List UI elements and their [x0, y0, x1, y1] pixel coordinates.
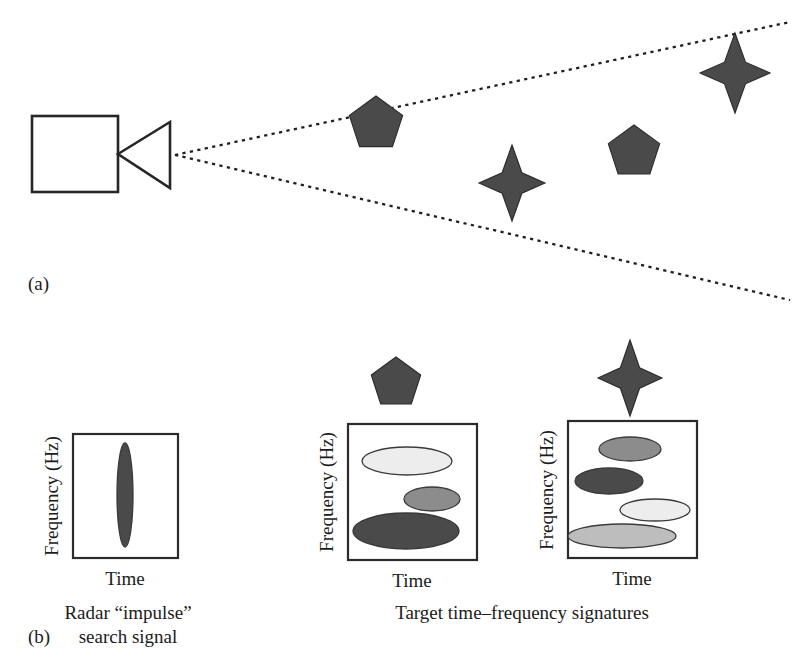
star-target-spectrogram — [568, 340, 697, 558]
panel-3-x-axis-label: Time — [612, 568, 651, 589]
radar-transmitter-box — [32, 116, 118, 192]
beam-cone-lower-line — [175, 155, 790, 300]
left-caption-line-2: search signal — [79, 626, 178, 647]
right-caption: Target time–frequency signatures — [395, 602, 649, 623]
blob-bottom-lightmid — [568, 524, 676, 548]
spectrogram-panels-group — [73, 340, 697, 560]
impulse-blob — [117, 443, 133, 547]
panel-1-y-axis-label: Frequency (Hz) — [41, 436, 63, 556]
radar-impulse-spectrogram — [73, 434, 178, 558]
pentagon-target-spectrogram-icon — [371, 357, 420, 404]
beam-cone-upper-line — [175, 22, 790, 155]
panel-1-x-axis-label: Time — [105, 568, 144, 589]
blob-mid-gray — [404, 487, 460, 511]
star-upper-right — [700, 33, 770, 113]
blob-high-light — [362, 447, 452, 475]
star-target-spectrogram-icon — [598, 340, 662, 416]
scene-a-group — [32, 22, 790, 300]
part-a-label: (a) — [28, 273, 49, 295]
pentagon-upper-left — [349, 96, 402, 147]
panel-3-y-axis-label: Frequency (Hz) — [536, 430, 558, 550]
target-shapes-group — [349, 33, 770, 221]
panel-2-y-axis-label: Frequency (Hz) — [316, 432, 338, 552]
blob-low-dark — [353, 513, 459, 549]
figure-container: (a) (b) Frequency (Hz) Time Frequency (H… — [0, 0, 796, 668]
radar-horn-triangle — [118, 122, 170, 188]
pentagon-middle-right — [608, 125, 659, 174]
star-lower-middle — [479, 145, 545, 221]
blob-upper-dark — [575, 468, 643, 494]
panel-2-x-axis-label: Time — [392, 570, 431, 591]
blob-lower-light — [620, 499, 690, 521]
left-caption-line-1: Radar “impulse” — [64, 602, 191, 623]
blob-high-mid — [599, 437, 661, 461]
pentagon-target-spectrogram — [348, 357, 477, 560]
radar-time-frequency-figure: (a) (b) Frequency (Hz) Time Frequency (H… — [0, 0, 796, 668]
part-b-label: (b) — [28, 626, 50, 648]
